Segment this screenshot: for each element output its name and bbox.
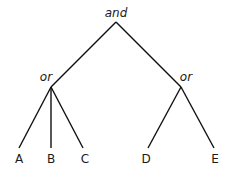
leaf-b-label: B (47, 152, 55, 166)
leaf-labels: A B C D E (15, 152, 219, 166)
or-left-label: or (40, 70, 53, 84)
edge-or-right-d (148, 87, 181, 148)
node-labels: and or or (40, 6, 193, 84)
edge-and-or-left (51, 22, 116, 87)
edge-or-right-e (181, 87, 214, 148)
leaf-a-label: A (15, 152, 24, 166)
edge-or-left-a (19, 87, 51, 148)
or-right-label: or (180, 70, 193, 84)
edge-and-or-right (116, 22, 181, 87)
edges (19, 22, 214, 148)
leaf-e-label: E (211, 152, 219, 166)
edge-or-left-c (51, 87, 83, 148)
root-and-label: and (105, 6, 128, 20)
leaf-c-label: C (81, 152, 89, 166)
leaf-d-label: D (141, 152, 150, 166)
logic-tree-diagram: and or or A B C D E (0, 0, 230, 173)
